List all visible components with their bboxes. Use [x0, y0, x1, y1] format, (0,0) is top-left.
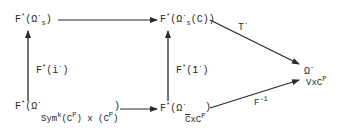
node-text: P: [109, 111, 113, 119]
node-text: Sym: [41, 114, 57, 124]
node-text: *: [21, 99, 25, 107]
node-text: ·: [182, 101, 186, 109]
node-text: ): [46, 14, 52, 25]
label-text: ·: [198, 63, 202, 71]
label-text: -1: [259, 95, 267, 103]
node-bottom-left: F*(Ω·: [15, 102, 41, 112]
node-bottom-right-close: ): [205, 103, 211, 113]
node-bottom-left-close: ): [114, 102, 120, 112]
label-left-vertical: F*(i·): [36, 66, 68, 76]
label-text: ·: [244, 20, 248, 28]
node-text: *: [21, 12, 25, 20]
node-text: k: [57, 111, 61, 119]
label-text: *: [182, 63, 186, 71]
label-text: (i: [46, 65, 58, 76]
label-text: ): [62, 65, 68, 76]
node-bottom-right-subscript: CxCP: [185, 115, 205, 125]
node-text: ): [114, 101, 120, 112]
node-top-right: F*(Ω·s(C)): [160, 15, 215, 25]
node-right-subscript: VxCP: [306, 78, 326, 88]
node-text: P: [72, 111, 76, 119]
node-text: xC: [311, 78, 322, 88]
node-text: (C)): [191, 14, 215, 25]
arrow-diagonal-top: [210, 20, 299, 64]
node-text: ): [205, 102, 211, 113]
node-text: *: [166, 12, 170, 20]
node-text: P: [201, 112, 205, 120]
node-top-left: F*(Ω·s): [15, 15, 52, 25]
node-text: ) x (C: [76, 114, 108, 124]
label-right-vertical: F*(ī·): [176, 66, 208, 76]
node-bottom-left-subscript: Symk(CP) x (CP): [41, 114, 118, 124]
node-text: ): [113, 114, 118, 124]
label-text: ·: [58, 63, 62, 71]
node-text: s: [186, 19, 190, 27]
label-diagonal-bottom: F-1: [254, 98, 268, 108]
node-text: (C: [61, 114, 72, 124]
node-text: xC: [190, 115, 201, 125]
label-text: *: [42, 63, 46, 71]
node-text: ·: [37, 99, 41, 107]
node-right: Ω·: [304, 67, 314, 77]
commutative-diagram: F*(Ω·s) F*(Ω·s(C)) F*(i·) F*(ī·) F*(Ω· S…: [0, 0, 350, 139]
node-bottom-right: F*(Ω·: [160, 104, 186, 114]
node-text: *: [166, 101, 170, 109]
label-text: (ī: [186, 65, 198, 76]
node-text: P: [322, 75, 326, 83]
label-diagonal-top: T·: [238, 23, 248, 33]
node-text: ·: [310, 64, 314, 72]
label-text: ): [202, 65, 208, 76]
node-text: s: [41, 19, 45, 27]
